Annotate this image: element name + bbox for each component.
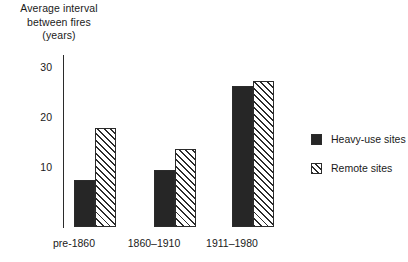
- y-axis-title-line-3: (years): [0, 29, 118, 43]
- legend-label-remote-sites: Remote sites: [331, 163, 392, 174]
- legend-item-remote-sites: Remote sites: [311, 162, 406, 175]
- bar-group-1860-1910: [154, 55, 198, 227]
- legend-swatch-remote-icon: [311, 163, 322, 174]
- chart-legend: Heavy-use sites Remote sites: [311, 133, 406, 191]
- x-tick-label-1860-1910: 1860–1910: [109, 238, 199, 249]
- x-tick-label-pre-1860: pre-1860: [29, 238, 119, 249]
- bar-heavy-use-1911-1980: [232, 86, 253, 227]
- bar-heavy-use-pre-1860: [74, 180, 95, 227]
- y-tick-label-30: 30: [26, 62, 52, 73]
- y-axis-title: Average interval between fires (years): [0, 2, 118, 43]
- x-tick-label-1911-1980: 1911–1980: [187, 238, 277, 249]
- legend-swatch-heavy-use-icon: [311, 134, 322, 145]
- y-axis-title-line-2: between fires: [0, 16, 118, 30]
- bar-remote-1911-1980: [253, 81, 274, 227]
- y-tick-label-10: 10: [26, 162, 52, 173]
- bar-remote-pre-1860: [95, 128, 116, 227]
- bar-group-1911-1980: [232, 55, 276, 227]
- fire-interval-bar-chart: Average interval between fires (years) 3…: [0, 0, 408, 262]
- bar-heavy-use-1860-1910: [154, 170, 175, 227]
- legend-item-heavy-use-sites: Heavy-use sites: [311, 133, 406, 146]
- bar-remote-1860-1910: [175, 149, 196, 227]
- bar-group-pre-1860: [74, 55, 118, 227]
- legend-label-heavy-use-sites: Heavy-use sites: [331, 134, 406, 145]
- y-tick-label-20: 20: [26, 112, 52, 123]
- y-axis-title-line-1: Average interval: [0, 2, 118, 16]
- plot-area: [63, 55, 323, 227]
